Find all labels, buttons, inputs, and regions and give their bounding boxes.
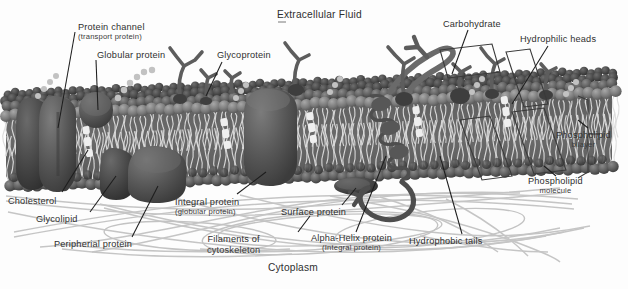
label-integral-protein: Integral protein (globular protein) [175, 197, 239, 217]
label-globular-protein: Globular protein [97, 50, 165, 61]
label-glycolipid: Glycolipid [36, 214, 78, 225]
label-hydrophilic-heads: Hydrophilic heads [520, 34, 596, 45]
globular-protein-shape [79, 92, 113, 128]
integral-protein-shape [128, 146, 186, 203]
label-surface-protein: Surface protein [281, 207, 346, 218]
label-phospholipid-molecule: Phospholipid molecule [528, 176, 583, 196]
cytoskeleton-filaments [6, 188, 590, 262]
label-phospholipid-bilayer: Phospholipid bilayer [556, 130, 611, 150]
label-alpha-helix-protein: Alpha-Helix protein (Integral protein) [311, 233, 392, 253]
label-hydrophobic-tails: Hydrophobic tails [409, 236, 483, 247]
protein-channel-shape [16, 96, 76, 192]
label-protein-channel: Protein channel (transport protein) [78, 22, 145, 42]
label-glycoprotein: Glycoprotein [217, 50, 271, 61]
cell-membrane-diagram: Extracellular Fluid Cytoplasm Protein ch… [0, 0, 628, 289]
label-cytoplasm: Cytoplasm [268, 262, 318, 274]
transmembrane-protein-shape [244, 88, 297, 186]
label-carbohydrate: Carbohydrate [443, 19, 501, 30]
label-extracellular-fluid: Extracellular Fluid [277, 9, 362, 21]
label-cholesterol: Cholesterol [8, 196, 57, 207]
label-filaments-of-cytoskeleton: Filaments of cytoskeleton [207, 234, 260, 256]
label-peripherial-protein: Peripherial protein [54, 239, 132, 250]
